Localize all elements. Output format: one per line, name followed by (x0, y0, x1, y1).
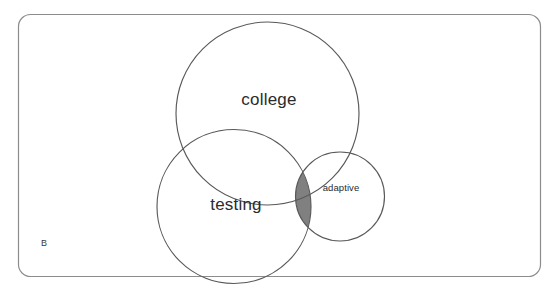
venn-diagram-canvas (0, 0, 556, 290)
figure-border (19, 15, 541, 277)
venn-label-college: college (241, 90, 296, 110)
panel-letter-label: B (41, 238, 47, 248)
venn-diagram-figure: college testing adaptive B (0, 0, 556, 290)
venn-label-testing: testing (210, 195, 262, 215)
venn-label-adaptive: adaptive (323, 182, 360, 193)
